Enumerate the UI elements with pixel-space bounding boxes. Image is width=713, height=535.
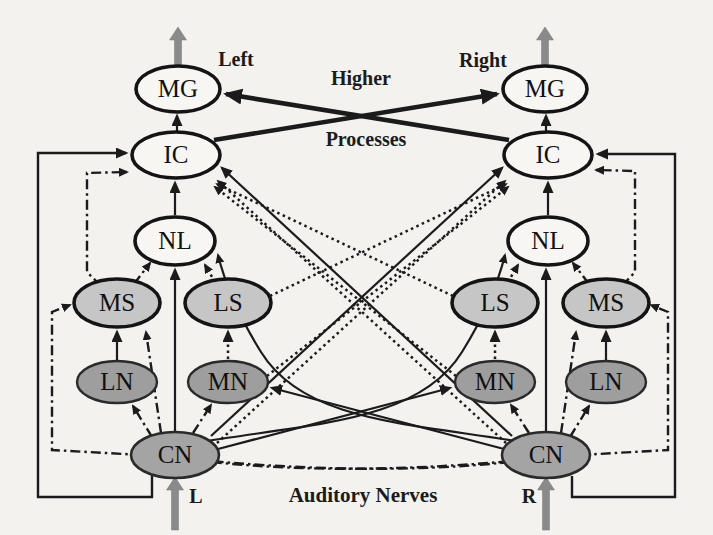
node-ln-right: LN [566,361,646,403]
node-mn-left: MN [188,361,268,403]
node-ln-left: LN [77,361,157,403]
node-ic-left-label: IC [164,141,189,168]
edge-cn-left-to-mn-left [193,405,211,433]
node-ls-right-label: LS [480,289,509,316]
node-cn-right: CN [502,432,590,478]
node-mn-right-label: MN [475,368,515,395]
mg-left-output-arrow [170,27,187,66]
node-nl-right-label: NL [531,227,564,254]
node-nl-left: NL [135,217,215,265]
node-mn-right: MN [455,361,535,403]
node-ms-left-label: MS [99,289,135,316]
node-nl-left-label: NL [158,227,191,254]
node-mg-right: MG [503,66,587,112]
node-ms-right-label: MS [588,289,624,316]
node-ls-left: LS [185,279,271,327]
edge-cn-right-to-mn-right [511,405,529,433]
node-ls-left-label: LS [213,289,242,316]
auditory-pathway-diagram: MG MG IC IC NL NL MS LS [0,0,713,535]
node-ls-right: LS [452,279,538,327]
edge-cn-right-to-ln-right [570,406,589,437]
diagram-canvas: MG MG IC IC NL NL MS LS [0,0,713,535]
label-higher: Higher [331,67,391,90]
node-ic-left: IC [132,132,220,178]
node-mg-left-label: MG [158,75,198,102]
label-auditory-nerves: Auditory Nerves [289,483,438,507]
node-ic-right: IC [504,132,592,178]
node-ln-left-label: LN [100,368,133,395]
label-left: Left [218,48,254,70]
edge-ls-left-to-ic-right [270,184,506,296]
label-l: L [189,485,202,507]
node-mg-right-label: MG [525,75,565,102]
node-nl-right: NL [508,217,588,265]
auditory-nerve-input-arrow-right [538,477,555,530]
edge-ls-right-to-ic-left [217,184,453,296]
edge-cn-left-to-ln-left [133,406,152,437]
node-mn-left-label: MN [208,368,248,395]
node-cn-left-label: CN [158,441,193,468]
edge-ms-left-to-ic-left [87,172,127,286]
edge-ms-right-to-ic-right [596,170,635,286]
node-ms-left: MS [74,279,160,327]
label-right: Right [459,49,507,72]
label-processes: Processes [326,128,407,150]
node-mg-left: MG [136,66,220,112]
mg-right-output-arrow [537,27,554,66]
label-r: R [522,485,537,507]
node-cn-right-label: CN [529,441,564,468]
node-ic-right-label: IC [536,141,561,168]
auditory-nerve-input-arrow-left [167,477,184,530]
node-ln-right-label: LN [589,368,622,395]
node-cn-left: CN [131,432,219,478]
node-ms-right: MS [563,279,649,327]
